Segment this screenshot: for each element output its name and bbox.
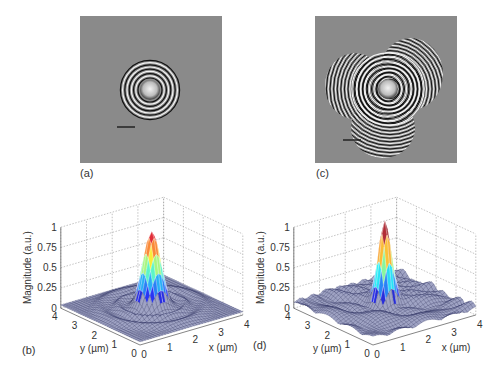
panel-label-d: (d) [253,339,266,351]
panel-c-hologram [315,16,457,163]
svg-text:4: 4 [52,311,58,322]
hologram-image-c [315,16,457,163]
svg-text:1: 1 [284,222,290,233]
svg-text:3: 3 [218,327,224,338]
hologram-image-a [80,16,222,163]
svg-text:1: 1 [344,339,350,350]
svg-text:0: 0 [374,349,380,360]
panel-label-c: (c) [316,167,329,179]
svg-text:0: 0 [131,348,137,359]
svg-text:0.75: 0.75 [37,242,57,253]
svg-text:2: 2 [193,334,199,345]
svg-text:2: 2 [426,334,432,345]
panel-label-a: (a) [80,167,93,179]
svg-text:3: 3 [451,327,457,338]
center-spot [140,80,160,100]
surface-mesh [294,221,476,337]
svg-text:0: 0 [364,348,370,359]
svg-text:4: 4 [477,319,483,330]
svg-text:1: 1 [400,342,406,353]
svg-text:0.25: 0.25 [270,282,290,293]
surface-plot-b: 00.250.50.7510123401234Magnitude (a.u.)x… [0,185,252,369]
x-axis-label: x (µm) [442,342,471,353]
z-axis-label: Magnitude (a.u.) [255,231,266,304]
svg-text:4: 4 [285,311,291,322]
svg-text:0: 0 [141,349,147,360]
svg-text:0.5: 0.5 [276,262,290,273]
svg-text:1: 1 [51,222,57,233]
center-spot [378,79,398,99]
y-axis-label: y (µm) [80,343,109,354]
svg-text:2: 2 [92,330,98,341]
svg-text:1: 1 [167,342,173,353]
y-axis-label: y (µm) [313,343,342,354]
svg-text:0.75: 0.75 [270,242,290,253]
svg-text:0.5: 0.5 [43,262,57,273]
panel-label-b: (b) [22,344,35,356]
surface-mesh [61,231,243,341]
panel-a-hologram [80,16,222,163]
surface-plot-d: 00.250.50.7510123401234Magnitude (a.u.)x… [233,185,504,369]
svg-text:2: 2 [325,330,331,341]
panel-d-surface-plot: 00.250.50.7510123401234Magnitude (a.u.)x… [233,185,504,369]
panel-b-surface-plot: 00.250.50.7510123401234Magnitude (a.u.)x… [0,185,252,369]
svg-text:3: 3 [305,320,311,331]
z-axis-label: Magnitude (a.u.) [22,231,33,304]
svg-text:0.25: 0.25 [37,282,57,293]
svg-text:1: 1 [111,339,117,350]
svg-text:3: 3 [72,320,78,331]
